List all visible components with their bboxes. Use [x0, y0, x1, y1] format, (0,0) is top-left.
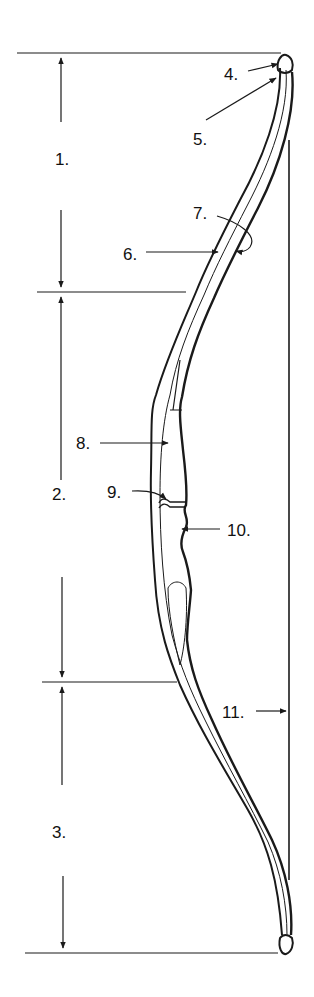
pointer-4 — [248, 64, 278, 71]
grip-window-inlay — [168, 582, 187, 665]
label-10-grip: 10. — [227, 521, 251, 540]
label-4-nock: 4. — [224, 65, 238, 84]
bow-body — [151, 55, 293, 954]
pointer-9 — [132, 491, 166, 499]
bow-belly-edge — [180, 72, 293, 935]
label-5-tip: 5. — [193, 130, 207, 149]
label-9-arrow-rest: 9. — [107, 483, 121, 502]
label-6-back: 6. — [123, 245, 137, 264]
pointer-5 — [206, 78, 276, 120]
bottom-string-nock — [279, 935, 292, 954]
label-3-lower-limb: 3. — [52, 823, 66, 842]
label-11-string: 11. — [222, 703, 244, 722]
bow-diagram: 1. 2. 3. 4. 5. 6. 7. 8. 9. 10. 11. — [0, 0, 314, 997]
label-7-belly: 7. — [193, 204, 207, 223]
arrow-rest-shelf — [159, 499, 185, 508]
label-1-upper-limb: 1. — [55, 150, 69, 169]
label-2-riser: 2. — [52, 485, 66, 504]
label-8-sight-window: 8. — [76, 434, 90, 453]
